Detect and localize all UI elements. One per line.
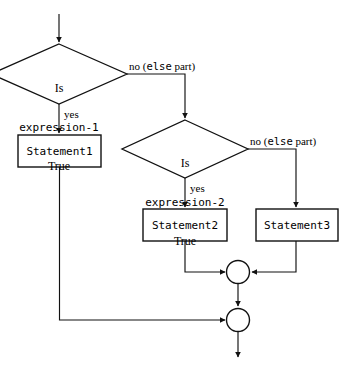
edge-decision-2-no bbox=[248, 149, 296, 207]
merge-node-lower-shape[interactable] bbox=[227, 309, 250, 332]
statement-1-shape[interactable] bbox=[18, 135, 101, 167]
statement-2-shape[interactable] bbox=[143, 209, 227, 241]
edge-statement-2-to-merge-upper bbox=[185, 241, 225, 272]
merge-node-upper-shape[interactable] bbox=[227, 261, 250, 284]
flowchart-canvas bbox=[0, 0, 347, 367]
statement-3-shape[interactable] bbox=[256, 209, 338, 241]
edge-statement-1-to-merge-lower bbox=[60, 167, 226, 320]
edge-statement-3-to-merge-upper bbox=[252, 241, 296, 272]
edge-decision-1-no bbox=[127, 74, 185, 118]
decision-1-shape[interactable] bbox=[0, 44, 127, 104]
decision-2-shape[interactable] bbox=[122, 120, 248, 178]
